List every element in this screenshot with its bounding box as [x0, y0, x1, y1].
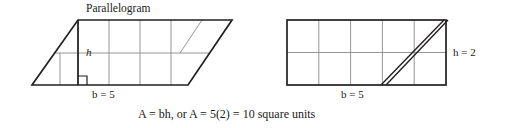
- parallelogram-outline: [32, 20, 232, 85]
- rectangle-height-label: h = 2: [453, 47, 476, 58]
- area-formula-caption: A = bh, or A = 5(2) = 10 square units: [138, 108, 315, 120]
- parallelogram-height-label: h: [86, 47, 92, 58]
- grid-line-v4: [180, 20, 202, 53]
- parallelogram-base-label: b = 5: [92, 89, 115, 100]
- right-angle-marker: [78, 76, 87, 85]
- parallelogram-group: [32, 20, 232, 85]
- rectangle-group: [287, 20, 448, 85]
- rectangle-grid: [287, 20, 446, 85]
- rectangle-base-label: b = 5: [341, 89, 364, 100]
- figure-title: Parallelogram: [86, 3, 151, 15]
